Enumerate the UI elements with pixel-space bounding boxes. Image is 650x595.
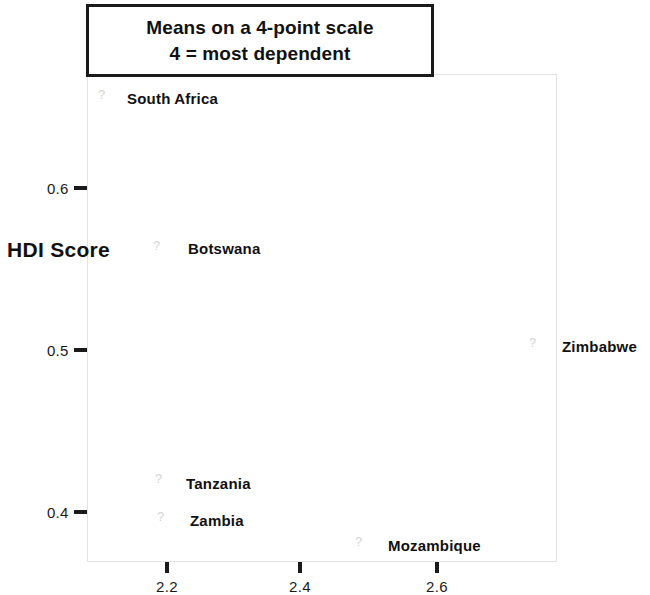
data-point-marker-zimbabwe: ? (529, 336, 536, 349)
x-tick-2.2: 2.2 (137, 562, 197, 595)
y-tick-0.5: 0.5 (47, 340, 87, 360)
x-tick-mark (435, 562, 439, 573)
data-point-label-zambia: Zambia (190, 512, 244, 529)
y-tick-label: 0.5 (47, 342, 68, 359)
data-point-marker-south-africa: ? (98, 88, 105, 101)
x-tick-label: 2.6 (407, 578, 467, 595)
data-point-label-zimbabwe: Zimbabwe (562, 338, 637, 355)
x-tick-label: 2.2 (137, 578, 197, 595)
y-tick-mark (74, 510, 87, 514)
x-tick-2.6: 2.6 (407, 562, 467, 595)
x-tick-2.4: 2.4 (270, 562, 330, 595)
x-tick-mark (165, 562, 169, 573)
data-point-label-botswana: Botswana (188, 240, 260, 257)
y-tick-0.4: 0.4 (47, 502, 87, 522)
chart-title-line-1: Means on a 4-point scale (146, 15, 373, 41)
y-axis-title: HDI Score (7, 238, 110, 262)
data-point-marker-mozambique: ? (355, 535, 362, 548)
data-point-marker-botswana: ? (153, 239, 160, 252)
data-point-label-tanzania: Tanzania (186, 475, 251, 492)
y-tick-0.6: 0.6 (47, 178, 87, 198)
x-tick-mark (298, 562, 302, 573)
chart-title-box: Means on a 4-point scale 4 = most depend… (86, 4, 434, 77)
y-tick-label: 0.6 (47, 180, 68, 197)
data-point-marker-zambia: ? (157, 510, 164, 523)
data-point-marker-tanzania: ? (155, 472, 162, 485)
data-point-label-mozambique: Mozambique (388, 537, 481, 554)
plot-area-frame (87, 74, 557, 562)
y-tick-label: 0.4 (47, 504, 68, 521)
scatter-plot-figure: Means on a 4-point scale 4 = most depend… (0, 0, 650, 595)
y-tick-mark (74, 348, 87, 352)
y-tick-mark (74, 186, 87, 190)
data-point-label-south-africa: South Africa (127, 90, 218, 107)
x-tick-label: 2.4 (270, 578, 330, 595)
chart-title-line-2: 4 = most dependent (170, 41, 351, 67)
